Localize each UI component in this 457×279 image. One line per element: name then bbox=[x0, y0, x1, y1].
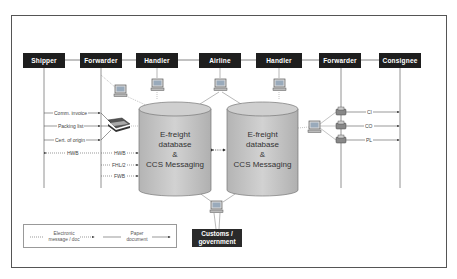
msg-label-hwb-shipper: HWB bbox=[66, 150, 80, 156]
actor-shipper: Shipper bbox=[23, 53, 65, 68]
doc-label-comm-invoice: Comm. invoice bbox=[53, 110, 88, 116]
doc-label-ci: CI bbox=[366, 109, 373, 115]
msg-label-fwb: FWB bbox=[113, 173, 126, 179]
actor-forwarder-dest: Forwarder bbox=[319, 53, 361, 68]
doc-label-co: CO bbox=[364, 123, 374, 129]
scanner-icon bbox=[108, 118, 130, 132]
actor-forwarder-origin: Forwarder bbox=[80, 53, 122, 68]
legend-paper-label: Paper document bbox=[122, 231, 152, 243]
forwarder-dest-computer-icon bbox=[308, 121, 321, 133]
actor-airline: Airline bbox=[199, 53, 241, 68]
legend: Electronic message / doc Paper document bbox=[23, 224, 177, 248]
actor-handler-dest: Handler bbox=[256, 53, 302, 68]
database-1-label: E-freight database & CCS Messaging bbox=[139, 130, 211, 170]
doc-label-packing-list: Packing list bbox=[57, 123, 84, 129]
forwarder-origin-computer-icon bbox=[114, 85, 127, 97]
database-2-label: E-freight database & CCS Messaging bbox=[227, 130, 298, 170]
actor-handler-origin: Handler bbox=[136, 53, 178, 68]
actor-consignee: Consignee bbox=[379, 53, 421, 68]
msg-label-hwb: HWB bbox=[113, 150, 127, 156]
actor-customs-government: Customs / government bbox=[192, 229, 242, 247]
printer-icon-co bbox=[336, 121, 346, 129]
printer-icon-ci bbox=[336, 107, 346, 115]
legend-electronic-label: Electronic message / doc bbox=[46, 231, 82, 243]
doc-label-cert-of-origin: Cert. of origin bbox=[54, 137, 86, 143]
printer-icon-pl bbox=[336, 135, 346, 143]
customs-computer-icon bbox=[210, 201, 223, 213]
handler-dest-computer-icon bbox=[273, 79, 286, 91]
doc-label-pl: PL bbox=[365, 137, 373, 143]
airline-computer-icon bbox=[214, 79, 227, 91]
msg-label-fhl2: FHL/2 bbox=[111, 162, 127, 168]
handler-origin-computer-icon bbox=[151, 79, 164, 91]
